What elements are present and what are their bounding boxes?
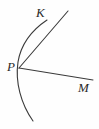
point-label-p: P: [7, 60, 15, 73]
point-label-m: M: [78, 81, 89, 94]
point-label-k: K: [36, 6, 45, 19]
geometry-figure: K P M: [0, 0, 99, 129]
